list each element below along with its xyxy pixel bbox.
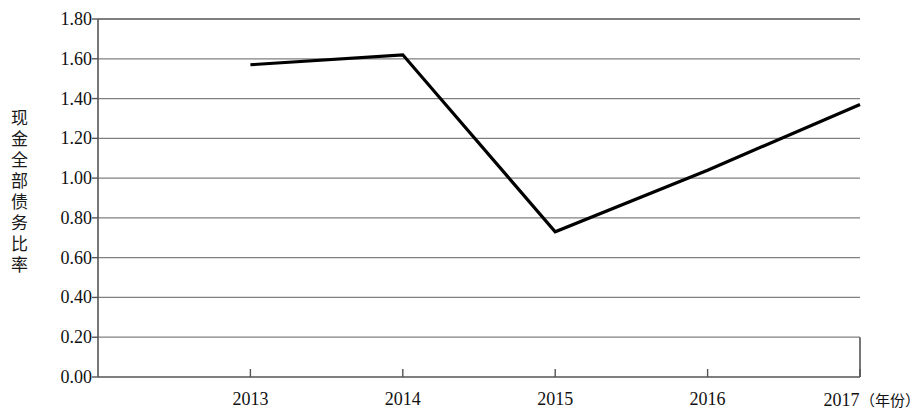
x-tick-label: 2016 xyxy=(690,389,726,410)
y-axis-tick-marks xyxy=(92,19,98,377)
data-series-line xyxy=(250,55,860,232)
x-tick-label: 2013 xyxy=(232,389,268,410)
x-axis-unit-label: （年份） xyxy=(860,392,915,410)
gridlines xyxy=(98,19,860,337)
x-tick-label: 2014 xyxy=(385,389,421,410)
axis-lines xyxy=(98,19,860,377)
x-axis-tick-marks xyxy=(250,369,860,377)
x-tick-label: 2015 xyxy=(537,389,573,410)
x-tick-label: 2017（年份） xyxy=(824,389,915,411)
